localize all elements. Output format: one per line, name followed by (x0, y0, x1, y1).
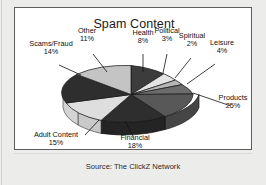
source-bar: Source: The ClickZ Network (14, 151, 252, 181)
label-products: Products 25% (212, 94, 254, 111)
source-attribution: Source: The ClickZ Network (14, 162, 252, 171)
label-financial: Financial 18% (113, 134, 157, 151)
pie-slices (62, 65, 193, 122)
label-adult-content: Adult Content 15% (25, 131, 87, 148)
label-financial-value: 18% (113, 142, 157, 150)
chart-panel: Spam Content (14, 7, 252, 150)
label-adult-content-value: 15% (25, 139, 87, 147)
source-divider (14, 153, 252, 154)
label-leisure: Leisure 4% (202, 39, 242, 56)
leader-leisure (187, 64, 215, 84)
label-other-value: 11% (64, 35, 110, 43)
label-scams-fraud-value: 14% (20, 48, 82, 56)
figure-background: Spam Content (0, 0, 266, 185)
leader-scams (59, 65, 81, 75)
label-other: Other 11% (64, 27, 110, 44)
leader-political (163, 54, 167, 73)
leader-spiritual (175, 58, 191, 78)
label-leisure-value: 4% (202, 47, 242, 55)
label-products-value: 25% (212, 102, 254, 110)
